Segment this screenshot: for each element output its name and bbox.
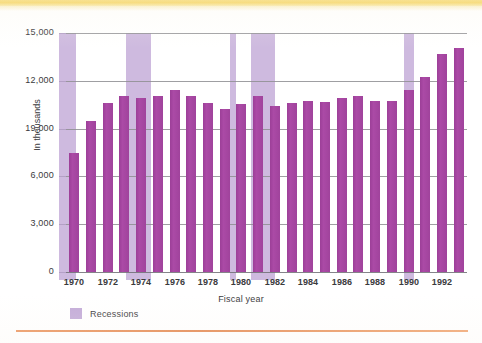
x-axis-tick-label: 1992 bbox=[422, 277, 462, 287]
bar bbox=[69, 153, 79, 272]
chart-legend: Recessions bbox=[70, 308, 139, 319]
bar bbox=[86, 121, 96, 272]
x-axis-title: Fiscal year bbox=[0, 294, 482, 304]
bar bbox=[236, 104, 246, 272]
plot-area bbox=[66, 33, 467, 272]
bar bbox=[136, 98, 146, 272]
y-axis-tick-label: 15,000 bbox=[2, 27, 54, 37]
bar bbox=[186, 96, 196, 272]
y-axis-tick-label: 3,000 bbox=[2, 218, 54, 228]
bar bbox=[153, 96, 163, 272]
bar bbox=[437, 54, 447, 272]
bar bbox=[220, 109, 230, 272]
bar bbox=[337, 98, 347, 272]
gridline bbox=[66, 33, 467, 34]
page-bottom-rule bbox=[16, 330, 468, 332]
legend-swatch-recessions bbox=[70, 308, 82, 319]
y-axis-tick-label: 0 bbox=[2, 266, 54, 276]
bar bbox=[253, 96, 263, 272]
bar bbox=[387, 101, 397, 272]
bar bbox=[320, 102, 330, 272]
bar bbox=[170, 90, 180, 272]
recession-band bbox=[230, 33, 236, 280]
y-axis-tick-label: 12,000 bbox=[2, 75, 54, 85]
bar bbox=[103, 103, 113, 272]
gridline bbox=[66, 81, 467, 82]
bar bbox=[119, 96, 129, 272]
bar bbox=[203, 103, 213, 272]
y-axis-tick-label: 6,000 bbox=[2, 170, 54, 180]
bar bbox=[270, 106, 280, 272]
bar bbox=[404, 90, 414, 272]
bar bbox=[287, 103, 297, 272]
gridline bbox=[66, 272, 467, 273]
bar bbox=[303, 101, 313, 272]
y-axis-tick-label: 19,000 bbox=[2, 123, 54, 133]
bar bbox=[353, 96, 363, 272]
bar bbox=[454, 48, 464, 272]
bar bbox=[370, 101, 380, 272]
legend-label-recessions: Recessions bbox=[90, 309, 139, 319]
bar bbox=[420, 77, 430, 272]
bar-chart: In thousands 03,0006,00019,00012,00015,0… bbox=[0, 0, 482, 343]
